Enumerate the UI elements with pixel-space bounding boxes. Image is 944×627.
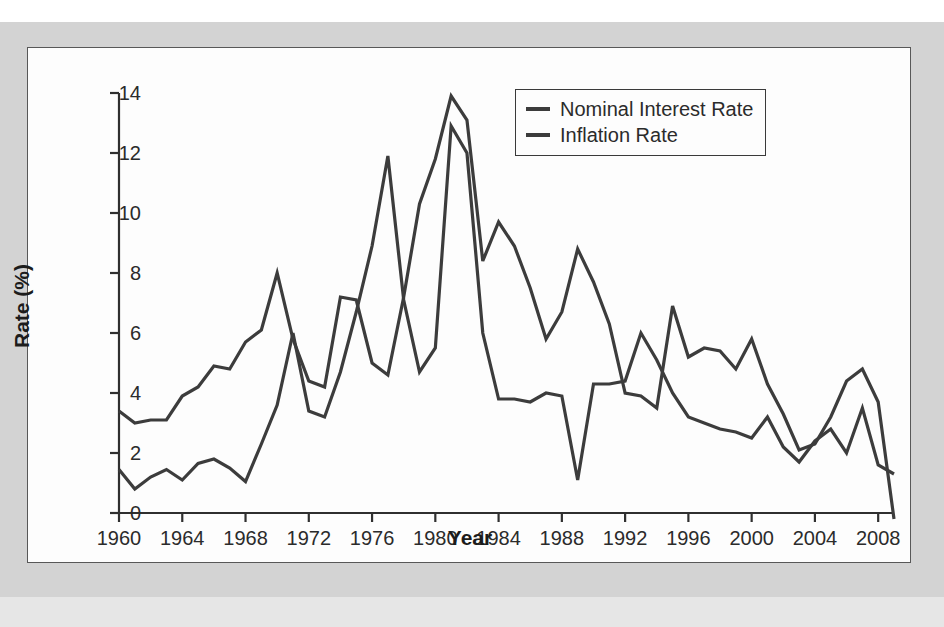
y-tick-label: 12 (101, 142, 141, 165)
figure-panel: 0246810121419601964196819721976198019841… (27, 47, 911, 563)
legend-line-swatch-nominal (526, 107, 550, 111)
legend-item-inflation-rate: Inflation Rate (526, 122, 753, 148)
axis-lines (119, 93, 894, 513)
page-background: 0246810121419601964196819721976198019841… (0, 0, 944, 627)
y-tick-label: 2 (101, 442, 141, 465)
y-tick-label: 8 (101, 262, 141, 285)
y-axis-title: Rate (%) (10, 264, 34, 348)
axis-tick-marks (110, 93, 878, 522)
y-tick-label: 10 (101, 202, 141, 225)
series-line-nominal-interest-rate (119, 96, 894, 519)
paper-edge-bottom (0, 597, 944, 627)
plot-area: 0246810121419601964196819721976198019841… (28, 48, 912, 564)
y-tick-label: 14 (101, 82, 141, 105)
chart-legend: Nominal Interest Rate Inflation Rate (515, 89, 766, 156)
legend-label-nominal: Nominal Interest Rate (560, 98, 753, 121)
y-tick-label: 4 (101, 382, 141, 405)
line-chart-svg (28, 48, 912, 564)
y-tick-label: 6 (101, 322, 141, 345)
legend-line-swatch-inflation (526, 133, 550, 137)
x-axis-title: Year (28, 526, 912, 550)
legend-label-inflation: Inflation Rate (560, 124, 678, 147)
data-series-group (119, 96, 894, 519)
paper-edge-top (0, 0, 944, 22)
series-line-inflation-rate (119, 126, 894, 489)
y-tick-label: 0 (101, 502, 141, 525)
legend-item-nominal-interest-rate: Nominal Interest Rate (526, 96, 753, 122)
